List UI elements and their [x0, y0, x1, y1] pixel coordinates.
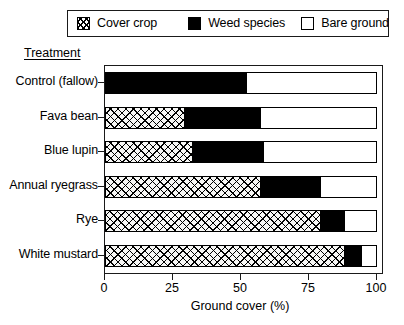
y-axis-label: White mustard: [19, 247, 98, 261]
bar-segment-weed-species: [192, 141, 263, 163]
y-axis-tick: [98, 151, 104, 152]
x-axis-tick: [376, 274, 377, 280]
bar-segment-bare-ground: [260, 107, 377, 129]
bar-segment-bare-ground: [263, 141, 377, 163]
y-axis-tick: [98, 255, 104, 256]
y-axis-label: Annual ryegrass: [9, 178, 98, 192]
x-axis-tick-label: 100: [366, 281, 387, 295]
x-axis-tick-label: 0: [101, 281, 108, 295]
bar-segment-cover-crop: [105, 245, 344, 267]
x-axis-tick: [104, 274, 105, 280]
bar-segment-bare-ground: [320, 176, 377, 198]
plot-area: [104, 65, 383, 274]
y-axis-label: Rye: [76, 212, 98, 226]
bar-segment-weed-species: [184, 107, 260, 129]
bar-segment-weed-species: [260, 176, 320, 198]
bar-segment-weed-species: [344, 245, 360, 267]
x-axis-tick-label: 25: [165, 281, 179, 295]
y-axis-label: Blue lupin: [44, 143, 98, 157]
x-axis-tick-label: 50: [233, 281, 247, 295]
y-axis-tick: [98, 220, 104, 221]
y-axis-heading: Treatment: [24, 46, 81, 60]
legend-label-weed-species: Weed species: [208, 17, 285, 30]
bar-segment-weed-species: [105, 72, 246, 94]
bar-segment-weed-species: [320, 210, 344, 232]
bar-row: [105, 176, 377, 198]
bar-segment-bare-ground: [246, 72, 377, 94]
bar-segment-cover-crop: [105, 210, 320, 232]
y-axis-tick: [98, 117, 104, 118]
x-axis-tick: [308, 274, 309, 280]
y-axis-tick: [98, 186, 104, 187]
legend-item-cover-crop: Cover crop: [77, 17, 157, 30]
bar-segment-bare-ground: [361, 245, 377, 267]
bar-row: [105, 107, 377, 129]
chart-legend: Cover crop Weed species Bare ground: [67, 10, 389, 37]
empty-square-icon: [301, 17, 314, 30]
filled-square-icon: [188, 17, 201, 30]
x-axis-tick-label: 75: [301, 281, 315, 295]
y-axis-labels: Control (fallow)Fava beanBlue lupinAnnua…: [0, 65, 98, 274]
x-axis-title: Ground cover (%): [104, 299, 376, 313]
bar-segment-cover-crop: [105, 107, 184, 129]
x-axis-tick: [240, 274, 241, 280]
bar-segment-bare-ground: [344, 210, 377, 232]
hatched-square-icon: [77, 17, 90, 30]
y-axis-label: Fava bean: [40, 109, 98, 123]
bar-row: [105, 210, 377, 232]
legend-item-bare-ground: Bare ground: [301, 17, 389, 30]
bar-row: [105, 72, 377, 94]
bar-row: [105, 141, 377, 163]
legend-item-weed-species: Weed species: [188, 17, 285, 30]
bar-segment-cover-crop: [105, 141, 192, 163]
y-axis-tick: [98, 82, 104, 83]
x-axis-tick: [172, 274, 173, 280]
legend-label-bare-ground: Bare ground: [321, 17, 389, 30]
bar-segment-cover-crop: [105, 176, 260, 198]
bar-row: [105, 245, 377, 267]
y-axis-label: Control (fallow): [16, 74, 98, 88]
legend-label-cover-crop: Cover crop: [97, 17, 157, 30]
